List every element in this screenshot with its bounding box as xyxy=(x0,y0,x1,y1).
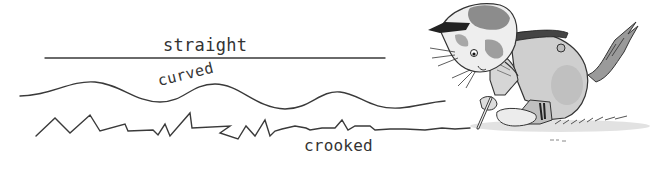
straight-label: straight xyxy=(163,37,247,54)
crooked-label: crooked xyxy=(304,138,373,154)
crooked-line xyxy=(36,113,470,139)
illustration-canvas: straight curved crooked xyxy=(0,0,668,170)
curved-line xyxy=(20,82,445,109)
cat-tail xyxy=(588,22,638,82)
ground-shadow xyxy=(470,116,650,141)
cat-character xyxy=(428,4,638,128)
suspender-button xyxy=(557,44,565,52)
